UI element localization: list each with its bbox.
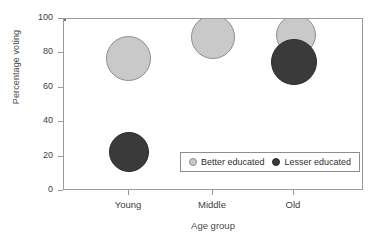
bubble-chart: Percentage voting 100 80 60 40 20 0 [0, 0, 384, 245]
y-tick-label: 0 [48, 184, 53, 194]
y-tick-label: 60 [43, 81, 53, 91]
legend-label: Lesser educated [284, 157, 351, 167]
legend-entry-better-educated: Better educated [189, 157, 265, 167]
legend-label: Better educated [201, 157, 265, 167]
x-tick-label: Young [88, 199, 168, 210]
y-tick-mark [58, 190, 63, 191]
x-tick-label: Old [253, 199, 333, 210]
y-tick-0: 0 [0, 190, 63, 191]
y-axis-title: Percentage voting [11, 7, 21, 127]
x-tick-label: Middle [172, 199, 252, 210]
x-tick-mark [128, 190, 129, 195]
bubble-middle-better-educated [191, 18, 235, 59]
y-tick-label: 100 [38, 12, 53, 22]
y-tick-label: 20 [43, 150, 53, 160]
x-tick-mark [212, 190, 213, 195]
y-tick-label: 80 [43, 46, 53, 56]
bubble-middle-lesser-educated [64, 19, 66, 21]
y-tick-20: 20 [0, 156, 63, 157]
bubble-young-lesser-educated [109, 132, 149, 172]
y-tick-60: 60 [0, 87, 63, 88]
y-tick-100: 100 [0, 18, 63, 19]
x-tick-mark [293, 190, 294, 195]
bubble-old-lesser-educated [271, 39, 317, 85]
y-tick-40: 40 [0, 121, 63, 122]
x-axis-title: Age group [63, 220, 363, 231]
y-tick-label: 40 [43, 115, 53, 125]
y-tick-80: 80 [0, 52, 63, 53]
legend-swatch-dark-circle-icon [272, 158, 280, 166]
legend-swatch-light-circle-icon [189, 158, 197, 166]
legend: Better educated Lesser educated [180, 152, 360, 172]
bubble-young-better-educated [106, 36, 151, 81]
legend-entry-lesser-educated: Lesser educated [272, 157, 351, 167]
